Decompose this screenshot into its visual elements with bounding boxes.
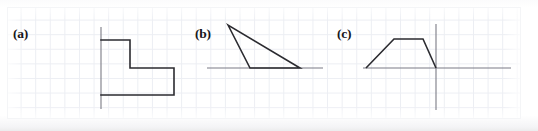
panel-b-drawing (207, 25, 323, 68)
panel-a-drawing (101, 27, 174, 109)
panel-b-thin-triangle (228, 25, 300, 68)
panel-label-b: (b) (195, 27, 211, 41)
panel-a-l-step-polygon (101, 40, 174, 95)
panel-c-trapezoid (366, 39, 436, 68)
panel-label-c: (c) (337, 27, 351, 41)
figure-drawing (0, 0, 538, 131)
figure-container: (a) (b) (c) (0, 0, 538, 131)
panel-label-a: (a) (13, 27, 28, 41)
panel-c-drawing (363, 24, 511, 110)
